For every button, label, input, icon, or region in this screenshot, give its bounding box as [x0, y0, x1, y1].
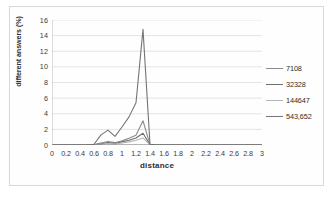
legend-item[interactable]: 144647 — [266, 92, 334, 108]
chart-legend: 710832328144647543,652 — [266, 60, 334, 124]
x-tick-label: 0 — [50, 149, 54, 158]
series-line — [52, 138, 262, 145]
legend-label: 144647 — [286, 96, 310, 105]
y-tick-label: 14 — [32, 32, 48, 39]
y-tick-label: 6 — [32, 95, 48, 102]
y-tick-label: 0 — [32, 142, 48, 149]
legend-label: 543,652 — [286, 112, 312, 121]
series-line — [52, 29, 262, 145]
y-tick-label: 16 — [32, 17, 48, 24]
x-tick-label: 2.4 — [215, 149, 225, 158]
y-tick-label: 12 — [32, 48, 48, 55]
legend-item[interactable]: 7108 — [266, 60, 334, 76]
legend-line-swatch — [266, 84, 283, 85]
x-tick-label: 2.8 — [243, 149, 253, 158]
plot-area — [52, 20, 262, 145]
y-tick-label: 10 — [32, 63, 48, 70]
legend-line-swatch — [266, 68, 283, 69]
legend-line-swatch — [266, 116, 283, 117]
gridlines — [52, 20, 262, 129]
data-series-group — [52, 29, 262, 145]
x-tick-label: 1.4 — [145, 149, 155, 158]
x-axis-title: distance — [52, 161, 262, 170]
x-tick-label: 2.2 — [201, 149, 211, 158]
x-axis-tick-labels: 00.20.40.60.811.21.41.61.822.22.42.62.83 — [52, 149, 262, 161]
legend-item[interactable]: 32328 — [266, 76, 334, 92]
x-tick-label: 1 — [120, 149, 124, 158]
y-tick-label: 8 — [32, 79, 48, 86]
y-axis-title: different answers (%) — [14, 4, 23, 100]
legend-label: 32328 — [286, 80, 306, 89]
x-tick-label: 1.6 — [159, 149, 169, 158]
legend-line-swatch — [266, 100, 283, 101]
chart-figure: different answers (%) 0246810121416 00.2… — [0, 0, 336, 198]
x-tick-label: 2.6 — [229, 149, 239, 158]
plot-svg — [52, 20, 262, 145]
y-axis-tick-labels: 0246810121416 — [28, 20, 48, 145]
series-line — [52, 133, 262, 145]
y-tick-label: 2 — [32, 126, 48, 133]
x-tick-label: 1.8 — [173, 149, 183, 158]
x-tick-label: 0.4 — [75, 149, 85, 158]
series-line — [52, 121, 262, 145]
legend-label: 7108 — [286, 64, 302, 73]
x-tick-label: 3 — [260, 149, 264, 158]
x-tick-label: 0.2 — [61, 149, 71, 158]
x-tick-label: 0.8 — [103, 149, 113, 158]
legend-item[interactable]: 543,652 — [266, 108, 334, 124]
y-tick-label: 4 — [32, 110, 48, 117]
x-tick-label: 0.6 — [89, 149, 99, 158]
x-tick-label: 2 — [190, 149, 194, 158]
x-tick-label: 1.2 — [131, 149, 141, 158]
